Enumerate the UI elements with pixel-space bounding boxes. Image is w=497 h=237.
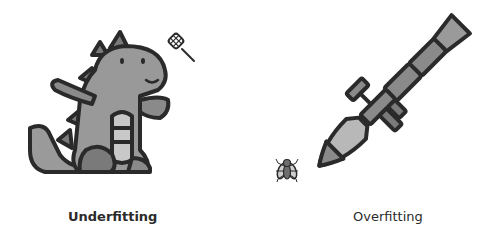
fly-swatter-icon — [168, 33, 194, 61]
underfitting-caption: Underfitting — [68, 209, 157, 224]
dinosaur-icon — [0, 0, 250, 237]
rocket-launcher-icon — [250, 0, 497, 237]
underfitting-panel: Underfitting — [0, 0, 250, 237]
overfitting-caption: Overfitting — [353, 209, 423, 224]
overfitting-panel: Overfitting — [250, 0, 497, 237]
fly-icon — [276, 159, 299, 182]
